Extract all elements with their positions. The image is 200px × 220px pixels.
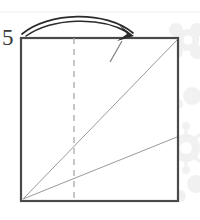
origami-step-diagram: 5 [0, 0, 200, 220]
step-number-label: 5 [2, 26, 14, 49]
diagram-canvas [0, 0, 200, 220]
fold-arrow-outer-stroke [22, 17, 133, 34]
